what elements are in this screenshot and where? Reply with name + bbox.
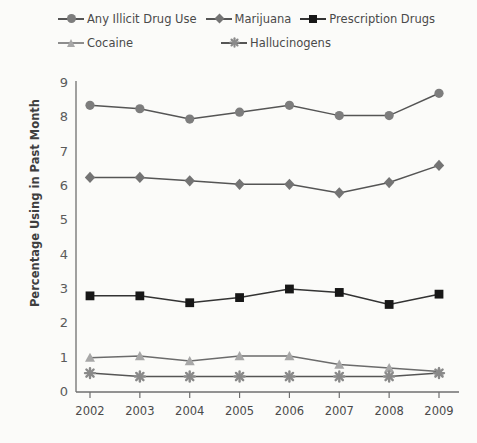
marker-diamond <box>234 179 244 190</box>
marker-asterisk <box>284 372 294 382</box>
marker-diamond <box>384 177 394 188</box>
marker-circle <box>434 89 443 98</box>
marker-diamond <box>434 160 444 171</box>
marker-circle <box>85 101 94 110</box>
marker-square <box>385 300 394 309</box>
marker-square <box>86 291 95 300</box>
marker-diamond <box>284 179 294 190</box>
marker-diamond <box>185 175 195 186</box>
marker-square <box>235 293 244 302</box>
marker-circle <box>135 104 144 113</box>
marker-circle <box>235 108 244 117</box>
marker-square <box>435 290 444 299</box>
marker-square <box>335 288 344 297</box>
marker-asterisk <box>85 368 95 378</box>
marker-circle <box>285 101 294 110</box>
marker-asterisk <box>185 372 195 382</box>
marker-square <box>185 298 194 307</box>
marker-circle <box>185 114 194 123</box>
marker-circle <box>335 111 344 120</box>
series-marijuana <box>85 160 444 199</box>
marker-asterisk <box>434 368 444 378</box>
marker-diamond <box>135 172 145 183</box>
marker-square <box>285 285 294 294</box>
marker-asterisk <box>235 372 245 382</box>
marker-square <box>135 291 144 300</box>
marker-diamond <box>85 172 95 183</box>
series-any-illicit-drug-use <box>85 89 443 124</box>
series-prescription-drugs <box>86 285 444 309</box>
plot-area <box>0 0 477 443</box>
marker-circle <box>385 111 394 120</box>
marker-asterisk <box>135 372 145 382</box>
marker-asterisk <box>384 372 394 382</box>
marker-asterisk <box>334 372 344 382</box>
line-chart: Any Illicit Drug Use Marijuana Prescript… <box>0 0 477 443</box>
marker-diamond <box>334 187 344 198</box>
